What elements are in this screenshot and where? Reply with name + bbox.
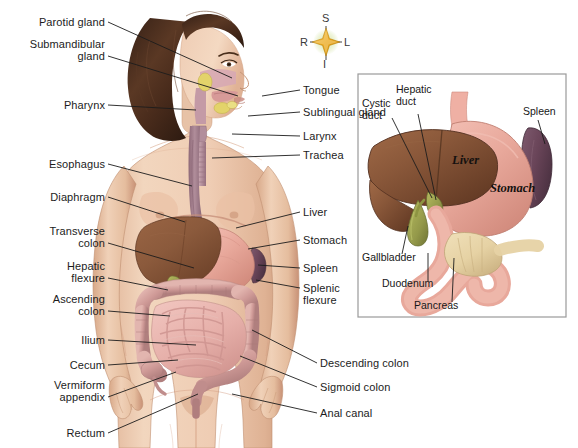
label-larynx: Larynx bbox=[303, 130, 337, 142]
label-vermiform-appendix: Vermiformappendix bbox=[0, 379, 105, 403]
label-spleen: Spleen bbox=[303, 262, 338, 274]
leader-sublingual-gland bbox=[248, 112, 300, 116]
inset-esophagus bbox=[451, 92, 469, 126]
parotid-gland-organ bbox=[198, 73, 212, 91]
label-liver: Liver bbox=[303, 206, 327, 218]
label-trachea: Trachea bbox=[303, 149, 344, 161]
label-tongue: Tongue bbox=[303, 84, 340, 96]
label-submandibular-gland: Submandibulargland bbox=[0, 38, 105, 62]
descending-colon bbox=[250, 310, 252, 356]
figure-root: Parotid gland Submandibulargland Pharynx… bbox=[0, 0, 578, 448]
pharynx bbox=[195, 88, 207, 124]
label-esophagus: Esophagus bbox=[0, 158, 105, 170]
female-figure bbox=[93, 11, 299, 448]
label-inset-duodenum: Duodenum bbox=[382, 278, 433, 290]
label-ascending-colon: Ascendingcolon bbox=[0, 293, 105, 317]
label-inset-cystic-duct: Cysticduct bbox=[362, 98, 391, 121]
label-diaphragm: Diaphragm bbox=[0, 191, 105, 203]
label-hepatic-flexure: Hepaticflexure bbox=[0, 260, 105, 284]
label-ilium: Ilium bbox=[0, 334, 105, 346]
label-descending-colon: Descending colon bbox=[320, 357, 409, 369]
sublingual-gland-organ bbox=[227, 101, 237, 108]
label-rectum: Rectum bbox=[0, 427, 105, 439]
label-pharynx: Pharynx bbox=[0, 99, 105, 111]
label-inset-pancreas: Pancreas bbox=[414, 300, 458, 312]
compass-label-inferior: I bbox=[323, 58, 326, 70]
label-inset-gallbladder: Gallbladder bbox=[362, 252, 416, 264]
label-inset-hepatic-duct: Hepaticduct bbox=[396, 84, 432, 107]
label-anal-canal: Anal canal bbox=[320, 407, 372, 419]
label-inset-liver-name: Liver bbox=[452, 153, 479, 168]
compass-label-left: L bbox=[344, 36, 350, 48]
label-inset-spleen: Spleen bbox=[523, 106, 556, 118]
compass-label-right: R bbox=[300, 36, 308, 48]
label-stomach: Stomach bbox=[303, 234, 347, 246]
leader-larynx bbox=[232, 134, 300, 136]
label-inset-stomach-name: Stomach bbox=[490, 181, 535, 196]
label-sigmoid-colon: Sigmoid colon bbox=[320, 381, 390, 393]
label-transverse-colon: Transversecolon bbox=[0, 225, 105, 249]
label-parotid-gland: Parotid gland bbox=[0, 16, 105, 28]
compass-label-superior: S bbox=[322, 12, 329, 24]
label-cecum: Cecum bbox=[0, 359, 105, 371]
label-splenic-flexure: Splenicflexure bbox=[303, 282, 340, 306]
orientation-compass bbox=[310, 26, 342, 60]
leader-tongue bbox=[262, 90, 300, 96]
small-intestine-ilium bbox=[152, 300, 247, 378]
